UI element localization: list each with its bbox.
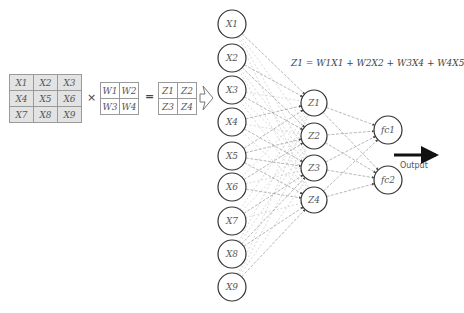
- hidden-node: Z1: [301, 90, 327, 116]
- node-label: fc1: [380, 125, 395, 135]
- node-label: fc2: [380, 175, 395, 185]
- hollow-arrow-icon: [200, 86, 213, 110]
- input-hidden-edge: [244, 97, 302, 130]
- node-label: Z4: [307, 195, 320, 205]
- input-hidden-edge: [242, 34, 305, 94]
- input-hidden-edge: [244, 163, 302, 194]
- node-label: X1: [225, 19, 238, 29]
- input-hidden-edge: [244, 207, 303, 246]
- node-label: X5: [225, 151, 238, 161]
- input-node: X2: [218, 44, 246, 72]
- input-hidden-edge: [242, 209, 305, 276]
- input-node: X7: [218, 207, 246, 235]
- hidden-output-edge: [326, 107, 375, 125]
- input-hidden-edge: [246, 139, 302, 153]
- node-label: X9: [225, 282, 238, 292]
- input-hidden-edge: [244, 143, 303, 180]
- input-hidden-edge: [246, 158, 301, 166]
- hidden-output-edge: [323, 140, 377, 191]
- input-hidden-edge-faint: [238, 115, 309, 274]
- node-label: X8: [225, 249, 238, 259]
- input-hidden-edge: [244, 129, 302, 162]
- hidden-output-edge: [323, 112, 378, 170]
- node-label: X7: [225, 216, 238, 226]
- hidden-output-edge: [325, 143, 376, 173]
- node-label: Z3: [307, 163, 320, 173]
- input-node: X4: [218, 108, 246, 136]
- hidden-output-edge: [327, 131, 374, 135]
- node-label: X3: [225, 85, 238, 95]
- input-node: X3: [218, 76, 246, 104]
- node-label: X2: [225, 53, 238, 63]
- input-node: X6: [218, 173, 246, 201]
- input-hidden-edge: [244, 65, 302, 97]
- node-label: Z2: [307, 131, 320, 141]
- hidden-node: Z3: [301, 155, 327, 181]
- hidden-output-edge: [327, 184, 375, 197]
- input-hidden-edge: [242, 177, 305, 243]
- hidden-node: Z2: [301, 123, 327, 149]
- input-node: X1: [218, 10, 246, 38]
- input-hidden-edge-faint: [239, 70, 307, 189]
- input-node: X5: [218, 142, 246, 170]
- input-node: X9: [218, 273, 246, 301]
- hidden-node: Z4: [301, 187, 327, 213]
- input-hidden-edge-faint: [246, 92, 301, 101]
- input-node: X8: [218, 240, 246, 268]
- output-node: fc1: [374, 116, 402, 144]
- node-label: Z1: [307, 98, 320, 108]
- input-hidden-edge: [244, 175, 303, 213]
- input-hidden-edge-faint: [246, 124, 301, 133]
- output-node: fc2: [374, 166, 402, 194]
- node-label: X6: [225, 182, 238, 192]
- node-label: X4: [225, 117, 238, 127]
- hidden-output-edge: [327, 170, 374, 178]
- input-hidden-edge: [242, 68, 304, 127]
